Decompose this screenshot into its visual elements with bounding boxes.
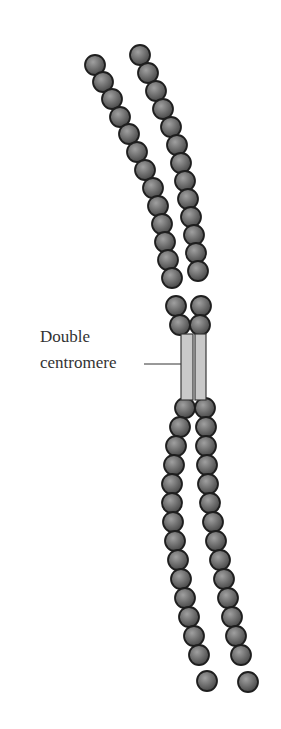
- chromatin-bead: [146, 81, 166, 101]
- chromatin-bead: [162, 268, 182, 288]
- chromatin-bead: [214, 569, 234, 589]
- chromatin-bead: [186, 243, 206, 263]
- chromatin-bead: [153, 99, 173, 119]
- chromatin-bead: [198, 474, 218, 494]
- chromatin-bead: [167, 135, 187, 155]
- chromatin-bead: [197, 671, 217, 691]
- chromatin-bead: [164, 455, 184, 475]
- chromatin-bead: [195, 398, 215, 418]
- upper-right-chromatid-arm: [130, 45, 211, 335]
- centromere-left: [181, 334, 193, 400]
- label-double: Double: [40, 327, 90, 346]
- chromatin-bead: [161, 117, 181, 137]
- chromatin-bead: [178, 189, 198, 209]
- chromatin-bead: [189, 645, 209, 665]
- chromatin-bead: [162, 493, 182, 513]
- chromatin-bead: [135, 160, 155, 180]
- chromatin-bead: [218, 588, 238, 608]
- chromatin-bead: [143, 178, 163, 198]
- chromatin-bead: [168, 550, 188, 570]
- chromatin-bead: [163, 512, 183, 532]
- chromatin-bead: [127, 142, 147, 162]
- chromatin-bead: [188, 261, 208, 281]
- chromatin-bead: [226, 626, 246, 646]
- chromatin-bead: [175, 588, 195, 608]
- upper-left-chromatid-arm: [85, 55, 190, 335]
- chromatin-bead: [130, 45, 150, 65]
- chromatin-bead: [170, 315, 190, 335]
- chromatin-bead: [206, 531, 226, 551]
- label-centromere: centromere: [40, 353, 116, 372]
- chromatin-bead: [170, 417, 190, 437]
- chromatin-bead: [203, 512, 223, 532]
- chromatin-bead: [196, 436, 216, 456]
- chromatin-bead: [179, 607, 199, 627]
- chromatin-bead: [119, 124, 139, 144]
- chromatin-bead: [190, 315, 210, 335]
- chromatin-bead: [231, 645, 251, 665]
- chromatin-bead: [148, 196, 168, 216]
- chromatin-bead: [152, 214, 172, 234]
- chromatin-bead: [158, 250, 178, 270]
- chromatin-bead: [200, 493, 220, 513]
- chromatin-bead: [196, 417, 216, 437]
- chromatin-bead: [162, 474, 182, 494]
- chromatin-bead: [184, 225, 204, 245]
- chromatin-bead: [197, 455, 217, 475]
- chromatin-bead: [171, 569, 191, 589]
- chromatin-bead: [184, 626, 204, 646]
- chromatin-bead: [166, 296, 186, 316]
- chromatin-bead: [102, 89, 122, 109]
- chromatin-bead: [238, 672, 258, 692]
- chromosome-diagram: Double centromere: [0, 0, 281, 729]
- chromatin-bead: [171, 153, 191, 173]
- chromatin-bead: [166, 436, 186, 456]
- chromatin-bead: [222, 607, 242, 627]
- chromatin-bead: [181, 207, 201, 227]
- centromere-right: [195, 334, 206, 400]
- chromatin-bead: [175, 171, 195, 191]
- chromatin-bead: [138, 63, 158, 83]
- chromatin-bead: [175, 398, 195, 418]
- chromatin-bead: [155, 232, 175, 252]
- chromatin-bead: [165, 531, 185, 551]
- chromatin-bead: [191, 296, 211, 316]
- chromatin-bead: [210, 550, 230, 570]
